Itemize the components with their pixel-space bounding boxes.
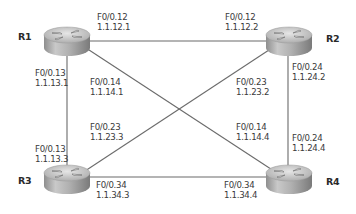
iface-label-r1-r4-a: F0/0.14 1.1.14.1 [90,77,123,97]
router-icon [44,27,90,56]
iface-name: F0/0.13 [35,68,68,78]
router-label-r1: R1 [18,31,31,42]
iface-name: F0/0.34 [96,180,129,190]
iface-name: F0/0.13 [35,144,68,154]
iface-label-r1-r4-b: F0/0.14 1.1.14.4 [236,122,269,142]
iface-name: F0/0.24 [292,62,325,72]
iface-name: F0/0.14 [90,77,123,87]
link-r2-r3 [82,48,272,173]
iface-ip: 1.1.13.3 [35,154,68,164]
iface-label-r2-r3-a: F0/0.23 1.1.23.2 [236,77,269,97]
iface-label-r2-r4-a: F0/0.24 1.1.24.2 [292,62,325,82]
iface-label-r1-r2-a: F0/0.12 1.1.12.1 [97,12,130,32]
router-label-r4: R4 [326,176,339,187]
iface-ip: 1.1.23.2 [236,87,269,97]
iface-label-r2-r4-b: F0/0.24 1.1.24.4 [292,133,325,153]
iface-ip: 1.1.14.4 [236,132,269,142]
router-r2[interactable] [266,27,312,56]
iface-name: F0/0.23 [90,122,123,132]
network-diagram [0,0,356,214]
router-label-r2: R2 [326,33,339,44]
iface-name: F0/0.12 [225,12,258,22]
iface-label-r3-r4-b: F0/0.34 1.1.34.4 [224,180,257,200]
iface-name: F0/0.34 [224,180,257,190]
iface-name: F0/0.24 [292,133,325,143]
iface-label-r3-r4-a: F0/0.34 1.1.34.3 [96,180,129,200]
iface-ip: 1.1.34.4 [224,190,257,200]
router-label-r3: R3 [18,175,31,186]
link-r1-r4 [86,48,277,173]
iface-name: F0/0.14 [236,122,269,132]
iface-ip: 1.1.24.4 [292,143,325,153]
iface-ip: 1.1.14.1 [90,87,123,97]
iface-ip: 1.1.34.3 [96,190,129,200]
iface-label-r1-r2-b: F0/0.12 1.1.12.2 [225,12,258,32]
iface-name: F0/0.12 [97,12,130,22]
iface-ip: 1.1.12.2 [225,22,258,32]
iface-label-r2-r3-b: F0/0.23 1.1.23.3 [90,122,123,142]
iface-ip: 1.1.23.3 [90,132,123,142]
router-r3[interactable] [44,165,90,194]
iface-name: F0/0.23 [236,77,269,87]
router-r4[interactable] [266,165,312,194]
router-icon [266,27,312,56]
iface-label-r1-r3-b: F0/0.13 1.1.13.3 [35,144,68,164]
iface-ip: 1.1.13.1 [35,78,68,88]
router-icon [266,165,312,194]
iface-ip: 1.1.12.1 [97,22,130,32]
iface-label-r1-r3-a: F0/0.13 1.1.13.1 [35,68,68,88]
router-icon [44,165,90,194]
router-r1[interactable] [44,27,90,56]
iface-ip: 1.1.24.2 [292,72,325,82]
